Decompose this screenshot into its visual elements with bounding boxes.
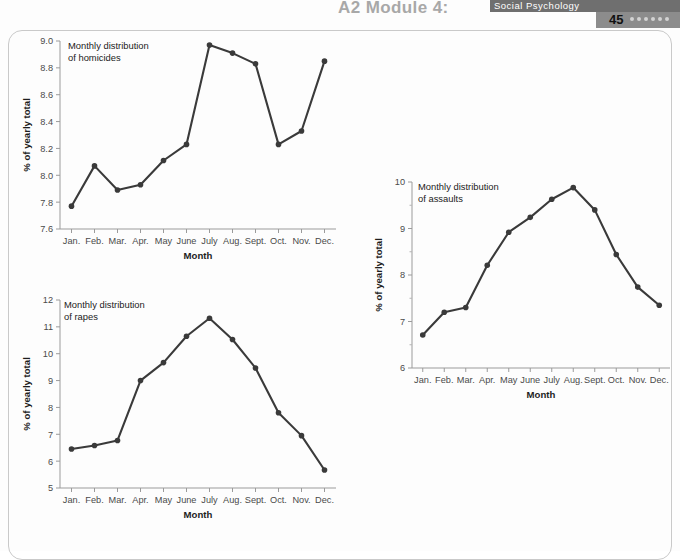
x-tick-label: May	[500, 375, 518, 385]
data-point	[613, 252, 619, 258]
page-dot	[665, 17, 669, 21]
y-tick-label: 10	[43, 349, 53, 359]
x-tick-label: July	[544, 375, 561, 385]
data-point	[484, 262, 490, 268]
y-tick-label: 7	[48, 430, 53, 440]
chart-caption-line: of assaults	[418, 193, 463, 204]
x-tick-label: Oct.	[608, 375, 625, 385]
x-tick-label: Feb.	[435, 375, 453, 385]
data-point	[441, 309, 447, 315]
data-point	[656, 302, 662, 308]
data-point	[253, 61, 259, 67]
y-tick-label: 8.4	[40, 117, 53, 127]
data-point	[138, 182, 144, 188]
data-line	[423, 188, 660, 335]
y-tick-label: 7.8	[40, 198, 53, 208]
y-tick-label: 7	[400, 317, 405, 327]
data-point	[184, 142, 190, 148]
x-tick-label: Sept.	[245, 236, 266, 246]
x-tick-label: Mar.	[109, 495, 127, 505]
x-tick-label: Mar.	[109, 236, 127, 246]
y-tick-label: 12	[43, 295, 53, 305]
data-point	[69, 446, 75, 452]
x-tick-label: Apr.	[132, 495, 148, 505]
data-point	[276, 142, 282, 148]
y-tick-label: 8	[48, 403, 53, 413]
chart-svg-rapes: 56789101112Jan.Feb.Mar.Apr.MayJuneJulyAu…	[14, 292, 344, 532]
y-tick-label: 8.8	[40, 63, 53, 73]
chart-caption-line: of homicides	[68, 52, 121, 63]
x-tick-label: Jan.	[414, 375, 431, 385]
x-tick-label: Mar.	[457, 375, 475, 385]
y-tick-label: 8	[400, 270, 405, 280]
chart-caption-line: Monthly distribution	[64, 299, 145, 310]
x-tick-label: Feb.	[85, 236, 103, 246]
chart-assaults: 678910Jan.Feb.Mar.Apr.MayJuneJulyAug.Sep…	[356, 172, 676, 412]
data-point	[299, 128, 305, 134]
x-tick-label: May	[155, 236, 173, 246]
data-point	[276, 410, 282, 416]
page-dot	[651, 17, 655, 21]
data-point	[138, 378, 144, 384]
x-tick-label: June	[177, 495, 197, 505]
x-axis-title: Month	[184, 250, 213, 261]
x-tick-label: Apr.	[132, 236, 148, 246]
data-point	[161, 158, 167, 164]
x-tick-label: Jan.	[63, 495, 80, 505]
page-dot-indicator	[630, 17, 669, 21]
data-point	[322, 467, 328, 473]
y-tick-label: 11	[43, 322, 53, 332]
data-point	[207, 315, 213, 321]
x-tick-label: Oct.	[270, 236, 287, 246]
chart-svg-assaults: 678910Jan.Feb.Mar.Apr.MayJuneJulyAug.Sep…	[356, 172, 676, 412]
chart-caption-line: Monthly distribution	[68, 40, 149, 51]
x-tick-label: Oct.	[270, 495, 287, 505]
x-axis-title: Month	[184, 509, 213, 520]
x-axis-title: Month	[527, 389, 556, 400]
data-point	[115, 187, 121, 193]
data-point	[570, 185, 576, 191]
data-point	[230, 50, 236, 56]
data-point	[92, 163, 98, 169]
y-tick-label: 6	[400, 363, 405, 373]
x-tick-label: Sept.	[584, 375, 605, 385]
x-tick-label: Apr.	[479, 375, 495, 385]
x-tick-label: Aug.	[223, 236, 242, 246]
data-point	[299, 433, 305, 439]
y-tick-label: 6	[48, 457, 53, 467]
data-point	[592, 207, 598, 213]
page-header: A2 Module 4: Social Psychology 45	[0, 0, 680, 28]
data-point	[115, 438, 121, 444]
chart-caption-line: of rapes	[64, 311, 98, 322]
section-title: Social Psychology	[494, 0, 580, 12]
y-tick-label: 8.0	[40, 171, 53, 181]
x-tick-label: June	[520, 375, 540, 385]
x-tick-label: Sept.	[245, 495, 266, 505]
data-point	[207, 42, 213, 48]
x-tick-label: June	[177, 236, 197, 246]
data-point	[463, 305, 469, 311]
data-point	[549, 196, 555, 202]
data-point	[506, 229, 512, 235]
module-title: A2 Module 4:	[338, 0, 449, 18]
x-tick-label: Dec.	[650, 375, 669, 385]
y-tick-label: 10	[395, 177, 405, 187]
data-point	[92, 443, 98, 449]
x-tick-label: Nov.	[292, 495, 310, 505]
y-axis-title: % of yearly total	[373, 238, 384, 312]
x-tick-label: July	[201, 495, 218, 505]
page-dot	[630, 17, 634, 21]
page-dot	[637, 17, 641, 21]
data-point	[322, 58, 328, 64]
data-point	[184, 333, 190, 339]
x-tick-label: Nov.	[629, 375, 647, 385]
page-dot	[658, 17, 662, 21]
y-axis-title: % of yearly total	[21, 357, 32, 431]
y-tick-label: 9	[48, 376, 53, 386]
data-point	[420, 332, 426, 338]
y-tick-label: 9.0	[40, 36, 53, 46]
chart-homicides: 7.67.88.08.28.48.68.89.0Jan.Feb.Mar.Apr.…	[14, 33, 344, 273]
chart-rapes: 56789101112Jan.Feb.Mar.Apr.MayJuneJulyAu…	[14, 292, 344, 532]
x-tick-label: Feb.	[85, 495, 103, 505]
x-tick-label: July	[201, 236, 218, 246]
